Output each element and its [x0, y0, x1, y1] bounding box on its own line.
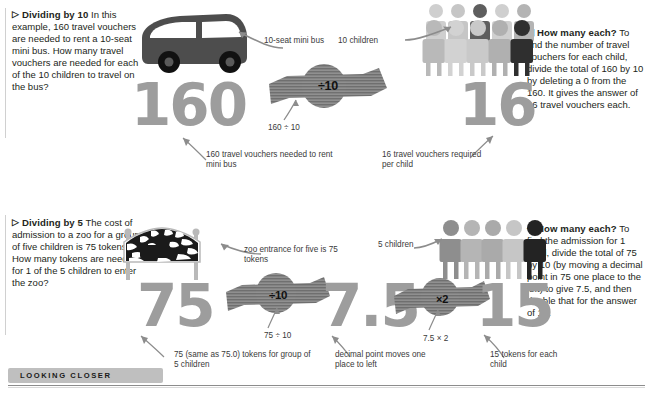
caption-zoo-entrance: zoo entrance for five is 75 tokens	[244, 245, 344, 266]
caption-75-tokens: 75 (same as 75.0) tokens for group of 5 …	[174, 350, 314, 371]
footer-rule	[8, 385, 645, 386]
arrow-to-children-icon	[403, 18, 465, 46]
caption-7-5-times-2: 7.5 × 2	[423, 334, 448, 344]
arrow-75-caption-icon	[136, 333, 168, 359]
looking-closer-label: LOOKING CLOSER	[8, 371, 112, 380]
footer-rule-secondary	[8, 387, 645, 388]
section-1-right-heading: How many each?	[537, 27, 617, 38]
looking-closer-tab: LOOKING CLOSER	[8, 368, 163, 383]
section-dividing-by-10-intro: ▷Dividing by 10 In this example, 160 tra…	[12, 8, 142, 93]
number-15: 15	[476, 277, 553, 335]
caption-5-children: 5 children	[378, 240, 414, 250]
left-rule-bottom	[5, 215, 6, 335]
caption-75-divided-10: 75 ÷ 10	[264, 331, 291, 341]
arrow-to-5-children-icon	[412, 234, 446, 254]
caption-160-divided-10: 160 ÷ 10	[268, 123, 300, 133]
caption-160-vouchers: 160 travel vouchers needed to rent mini …	[206, 150, 341, 171]
arrow-to-operator-2-icon	[264, 302, 286, 330]
triangle-right-icon: ▷	[12, 8, 19, 20]
zebra-zoo-sign-icon	[118, 218, 208, 280]
caption-10-children: 10 children	[338, 36, 378, 46]
section-2-right-heading: How many each?	[537, 223, 617, 234]
caption-decimal-point-moves: decimal point moves one place to left	[335, 350, 445, 371]
section-1-right-text: To find the number of travel vouchers fo…	[527, 27, 643, 111]
triangle-right-icon-2: ▷	[12, 216, 19, 228]
arrow-to-operator-1-icon	[282, 92, 308, 122]
infographic-page: ▷Dividing by 10 In this example, 160 tra…	[0, 0, 653, 408]
section-1-heading: Dividing by 10	[22, 9, 88, 20]
section-dividing-by-10-explainer: ◁How many each? To find the number of tr…	[527, 26, 647, 111]
number-160: 160	[131, 76, 246, 134]
section-2-heading: Dividing by 5	[22, 217, 83, 228]
caption-mini-bus: 10-seat mini bus	[264, 36, 324, 46]
arrow-to-operator-3-icon	[425, 305, 447, 333]
section-1-intro-text: In this example, 160 travel vouchers are…	[12, 9, 138, 93]
caption-15-tokens: 15 tokens for each child	[490, 350, 570, 371]
number-75: 75	[137, 277, 214, 335]
caption-16-vouchers: 16 travel vouchers required per child	[382, 150, 492, 171]
left-rule-top	[5, 8, 6, 138]
number-16: 16	[459, 76, 536, 134]
